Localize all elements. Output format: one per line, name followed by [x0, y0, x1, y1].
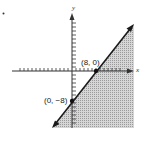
- inequality-graph: [0, 0, 146, 142]
- point-label-x-intercept: (8, 0): [81, 59, 100, 67]
- bullet-dot: [3, 13, 5, 15]
- y-axis-arrow-icon: [70, 13, 75, 20]
- point-y-intercept: [70, 99, 74, 103]
- point-label-y-intercept: (0, −8): [44, 97, 67, 105]
- x-axis-label: x: [136, 67, 139, 74]
- y-axis-label: y: [72, 5, 75, 12]
- point-x-intercept: [94, 69, 98, 73]
